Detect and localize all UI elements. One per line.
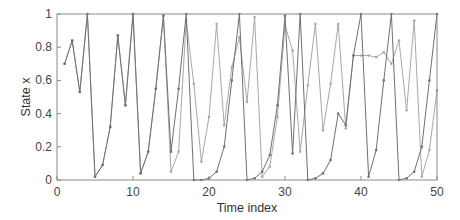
- x-tick-label: 40: [354, 185, 368, 199]
- data-point: [329, 159, 332, 162]
- data-point: [367, 175, 370, 178]
- data-point: [360, 54, 363, 57]
- y-tick-label: 0.4: [35, 107, 52, 121]
- data-point: [375, 149, 378, 152]
- data-point: [337, 112, 340, 115]
- data-point: [269, 165, 272, 168]
- data-point: [329, 82, 332, 85]
- data-point: [109, 126, 112, 129]
- chart-background: [0, 0, 460, 220]
- data-point: [284, 14, 287, 17]
- data-point: [177, 87, 180, 90]
- y-tick-label: 0.8: [35, 40, 52, 54]
- data-point: [139, 172, 142, 175]
- data-point: [215, 170, 218, 173]
- data-point: [405, 109, 408, 112]
- data-point: [79, 91, 82, 94]
- data-point: [322, 129, 325, 132]
- data-point: [223, 146, 226, 149]
- data-point: [299, 150, 302, 153]
- data-point: [276, 104, 279, 107]
- y-axis-label: State x: [19, 77, 33, 117]
- data-point: [307, 84, 310, 87]
- data-point: [390, 63, 393, 66]
- data-point: [155, 87, 158, 90]
- y-tick-label: 1: [45, 7, 52, 21]
- data-point: [231, 79, 234, 82]
- x-tick-label: 10: [126, 185, 140, 199]
- data-point: [352, 54, 355, 57]
- data-point: [208, 116, 211, 119]
- data-point: [413, 170, 416, 173]
- data-point: [200, 160, 203, 163]
- data-point: [223, 124, 226, 127]
- x-tick-label: 20: [202, 185, 216, 199]
- data-point: [405, 177, 408, 180]
- y-tick-label: 0.2: [35, 140, 52, 154]
- data-point: [261, 175, 264, 178]
- data-point: [124, 104, 127, 107]
- data-point: [314, 23, 317, 26]
- x-tick-label: 30: [278, 185, 292, 199]
- data-point: [421, 175, 424, 178]
- data-point: [375, 56, 378, 59]
- data-point: [71, 39, 74, 42]
- data-point: [147, 150, 150, 153]
- x-tick-label: 0: [54, 185, 61, 199]
- y-tick-label: 0.6: [35, 73, 52, 87]
- data-point: [117, 34, 120, 37]
- data-point: [291, 152, 294, 155]
- data-point: [261, 170, 264, 173]
- data-point: [269, 154, 272, 157]
- data-point: [367, 54, 370, 57]
- data-point: [193, 82, 196, 85]
- data-point: [428, 79, 431, 82]
- data-point: [246, 101, 249, 104]
- data-point: [322, 172, 325, 175]
- data-point: [413, 19, 416, 22]
- data-point: [94, 175, 97, 178]
- data-point: [231, 66, 234, 69]
- data-point: [253, 16, 256, 19]
- data-point: [428, 149, 431, 152]
- data-point: [276, 116, 279, 119]
- x-axis-label: Time index: [217, 201, 278, 215]
- data-point: [170, 170, 173, 173]
- data-point: [383, 79, 386, 82]
- data-point: [345, 124, 348, 127]
- data-point: [162, 14, 165, 17]
- data-point: [383, 51, 386, 54]
- data-point: [345, 127, 348, 130]
- data-point: [291, 49, 294, 52]
- data-point: [177, 150, 180, 153]
- data-point: [398, 39, 401, 42]
- data-point: [170, 150, 173, 153]
- x-tick-label: 50: [430, 185, 444, 199]
- data-point: [215, 23, 218, 26]
- data-point: [314, 177, 317, 180]
- data-point: [101, 164, 104, 167]
- data-point: [337, 23, 340, 26]
- y-tick-label: 0: [45, 173, 52, 187]
- line-chart: 0102030405000.20.40.60.81 Time index Sta…: [0, 0, 460, 220]
- data-point: [63, 63, 66, 66]
- data-point: [253, 177, 256, 180]
- data-point: [421, 146, 424, 149]
